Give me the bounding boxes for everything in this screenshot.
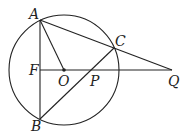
label-c: C	[115, 33, 126, 49]
label-a: A	[27, 6, 39, 22]
label-o: O	[58, 73, 70, 89]
geometry-diagram: A B C F O P Q	[0, 0, 192, 139]
center-dot-o	[62, 68, 66, 72]
label-p: P	[89, 73, 100, 89]
label-b: B	[30, 118, 41, 134]
label-q: Q	[168, 73, 180, 89]
label-f: F	[28, 62, 40, 78]
